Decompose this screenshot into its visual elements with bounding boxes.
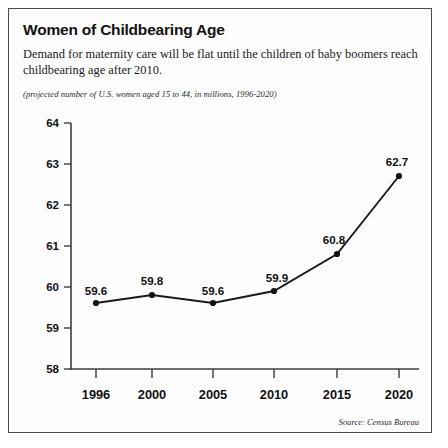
data-point-marker <box>93 300 99 306</box>
x-tick-label-2020: 2020 <box>385 387 413 402</box>
x-tick-label-2005: 2005 <box>199 387 227 402</box>
x-tick-label-2000: 2000 <box>138 387 166 402</box>
data-label-2005: 59.6 <box>202 284 225 297</box>
y-tick-label-63: 63 <box>46 158 59 170</box>
x-tick-label-1996: 1996 <box>82 387 110 402</box>
data-point-marker <box>149 292 155 298</box>
chart-plot-area: 64 63 62 61 60 59 58 1996 20 <box>9 9 432 433</box>
chart-figure-panel: Women of Childbearing Age Demand for mat… <box>8 8 432 433</box>
data-label-2010: 59.9 <box>266 271 289 284</box>
x-axis: 1996 2000 2005 2010 2015 2020 <box>71 369 419 402</box>
x-axis-ticks <box>96 369 399 378</box>
y-tick-label-62: 62 <box>46 199 59 211</box>
data-point-marker <box>271 288 277 294</box>
data-label-1996: 59.6 <box>85 284 108 297</box>
y-axis-ticks <box>64 123 71 369</box>
y-axis: 64 63 62 61 60 59 58 <box>46 117 71 375</box>
data-label-2015: 60.8 <box>323 233 346 246</box>
y-tick-label-60: 60 <box>46 281 59 293</box>
line-chart-svg: 64 63 62 61 60 59 58 1996 20 <box>9 9 432 433</box>
y-tick-label-59: 59 <box>46 322 59 334</box>
source-attribution: Source: Census Bureau <box>338 417 419 427</box>
data-label-2000: 59.8 <box>141 274 164 287</box>
data-point-marker <box>334 251 340 257</box>
data-point-marker <box>210 300 216 306</box>
y-tick-label-61: 61 <box>46 240 59 252</box>
data-label-2020: 62.7 <box>386 155 409 168</box>
x-tick-label-2015: 2015 <box>323 387 351 402</box>
y-tick-label-58: 58 <box>46 363 59 375</box>
data-point-marker <box>396 173 402 179</box>
y-tick-label-64: 64 <box>46 117 59 129</box>
x-tick-label-2010: 2010 <box>260 387 288 402</box>
data-series-women-childbearing-age <box>93 173 402 306</box>
